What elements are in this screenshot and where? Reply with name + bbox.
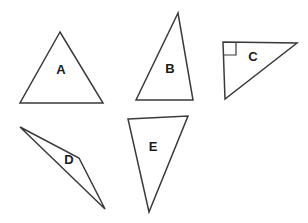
- triangle-d: [20, 127, 105, 209]
- triangle-b: [136, 13, 193, 100]
- triangle-group-d: D: [20, 127, 105, 209]
- triangle-c-label: C: [248, 49, 258, 64]
- triangles-figure: A B C D E: [0, 0, 308, 223]
- triangle-group-e: E: [128, 116, 188, 212]
- triangle-group-a: A: [20, 32, 103, 103]
- triangle-group-c: C: [223, 42, 297, 99]
- triangle-a-label: A: [56, 62, 66, 77]
- triangle-d-label-text: D: [64, 152, 73, 167]
- triangle-group-b: B: [136, 13, 193, 100]
- triangle-c-label-text: C: [248, 49, 258, 64]
- triangle-e-label-text: E: [149, 139, 158, 154]
- triangle-e-label: E: [149, 139, 158, 154]
- triangle-a-label-text: A: [56, 62, 66, 77]
- triangle-b-label: B: [165, 61, 174, 76]
- triangle-e: [128, 116, 188, 212]
- triangle-c: [223, 42, 297, 99]
- triangles-diagram: A B C D E: [0, 0, 308, 223]
- triangle-b-label-text: B: [165, 61, 174, 76]
- triangle-d-label: D: [64, 152, 73, 167]
